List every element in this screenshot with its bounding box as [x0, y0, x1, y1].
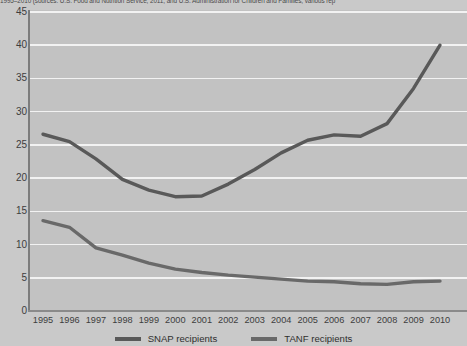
y-axis-tick-label: 45 — [3, 7, 27, 17]
y-axis-tick-label: 5 — [3, 273, 27, 283]
y-axis-tick-label: 25 — [3, 140, 27, 150]
y-axis-tick-labels: 051015202530354045 — [0, 10, 27, 312]
y-axis-tick-label: 30 — [3, 107, 27, 117]
y-axis-tick-label: 0 — [3, 306, 27, 316]
y-axis-tick-label: 10 — [3, 240, 27, 250]
legend-label: TANF recipients — [284, 334, 352, 344]
legend-item[interactable]: SNAP recipients — [115, 334, 218, 344]
y-axis-tick-label: 35 — [3, 73, 27, 83]
legend-label: SNAP recipients — [148, 334, 218, 344]
chart-legend: SNAP recipientsTANF recipients — [0, 331, 467, 346]
legend-item[interactable]: TANF recipients — [251, 334, 352, 344]
y-axis-tick-label: 15 — [3, 206, 27, 216]
x-axis-tick-label: 2010 — [423, 315, 457, 325]
legend-swatch — [251, 337, 277, 341]
x-axis-tick-labels: 1995199619971998199920002001200220032004… — [28, 0, 467, 346]
legend-swatch — [115, 337, 141, 341]
chart-root: 1995–2010 (sources: U.S. Food and Nutrit… — [0, 0, 467, 346]
y-axis-tick-label: 20 — [3, 173, 27, 183]
y-axis-tick-label: 40 — [3, 40, 27, 50]
